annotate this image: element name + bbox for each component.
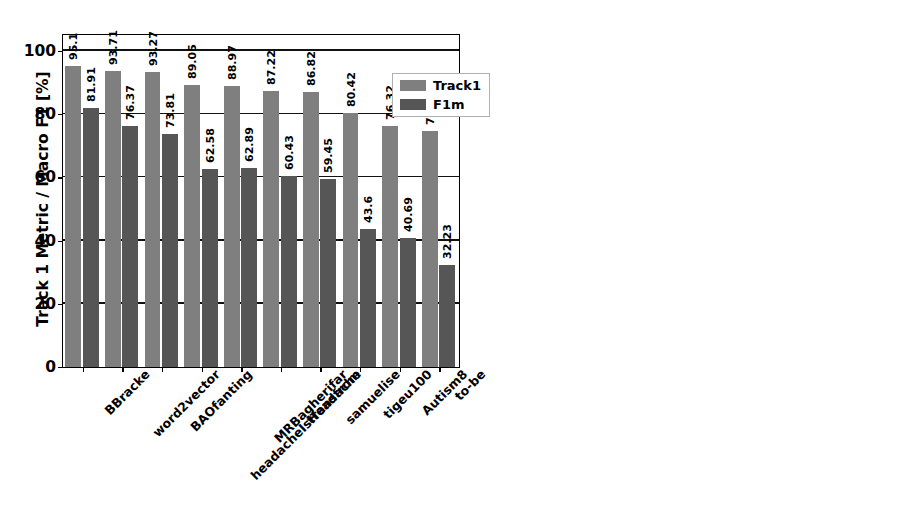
x-tick-mark [83, 367, 84, 372]
y-tick-mark [58, 177, 63, 178]
bar-value-label: 43.6 [362, 196, 373, 223]
y-tick-label: 0 [45, 358, 56, 376]
bar-value-label: 87.22 [266, 50, 277, 85]
bar-value-label: 62.89 [244, 127, 255, 162]
bar-group: 93.7176.37 [105, 35, 140, 367]
x-tick-mark [400, 367, 401, 372]
bar: 62.89 [241, 168, 257, 367]
bar: 89.05 [184, 85, 200, 367]
bar: 40.69 [400, 238, 416, 367]
bar-group: 93.2773.81 [145, 35, 180, 367]
bar-group: 86.8259.45 [303, 35, 338, 367]
bar-value-label: 59.45 [323, 138, 334, 173]
bar-value-label: 93.27 [147, 31, 158, 66]
y-tick-mark [58, 51, 63, 52]
legend-label: F1m [433, 98, 464, 111]
x-tick-mark [360, 367, 361, 372]
bar-value-label: 80.42 [345, 72, 356, 107]
bar-value-label: 89.05 [187, 45, 198, 80]
legend-swatch [400, 99, 426, 110]
figure-root: Track 1 Metric / Macro F1 [%] 95.181.919… [0, 0, 919, 519]
bar-value-label: 93.71 [107, 30, 118, 65]
y-tick-label: 20 [34, 295, 56, 313]
bar: 59.45 [320, 179, 336, 367]
y-tick-label: 60 [34, 168, 56, 186]
bar-value-label: 76.37 [125, 85, 136, 120]
y-tick-mark [58, 304, 63, 305]
bar: 80.42 [343, 113, 359, 367]
y-tick-mark [58, 367, 63, 368]
bar-value-label: 32.23 [442, 224, 453, 259]
bar-value-label: 88.97 [226, 45, 237, 80]
y-tick-label: 40 [34, 232, 56, 250]
y-tick-mark [58, 241, 63, 242]
bar: 93.27 [145, 72, 161, 367]
bar-value-label: 86.82 [305, 52, 316, 87]
x-tick-mark [202, 367, 203, 372]
bar: 76.32 [382, 126, 398, 367]
chart-panel-track2: Track 2 Metric 1146155314852487248129572… [470, 0, 919, 519]
bar: 93.71 [105, 71, 121, 367]
bar: 87.22 [263, 91, 279, 367]
y-tick-label: 80 [34, 105, 56, 123]
bar-group: 88.9762.89 [224, 35, 259, 367]
bar: 60.43 [281, 176, 297, 367]
y-tick-label: 100 [24, 42, 56, 60]
bar: 32.23 [439, 265, 455, 367]
bar-value-label: 40.69 [402, 198, 413, 233]
x-tick-mark [281, 367, 282, 372]
plot-area-left: 95.181.9193.7176.3793.2773.8189.0562.588… [62, 34, 460, 368]
bar-group: 87.2260.43 [263, 35, 298, 367]
x-tick-mark [122, 367, 123, 372]
bar-value-label: 73.81 [164, 93, 175, 128]
bar-value-label: 81.91 [85, 67, 96, 102]
bar-group: 80.4243.6 [343, 35, 378, 367]
chart-panel-track1: Track 1 Metric / Macro F1 [%] 95.181.919… [0, 0, 470, 519]
x-tick-label: BBracke [103, 368, 153, 418]
x-tick-mark [439, 367, 440, 372]
bar: 62.58 [202, 169, 218, 367]
legend-item: F1m [400, 98, 481, 111]
legend-item: Track1 [400, 79, 481, 92]
x-tick-mark [162, 367, 163, 372]
x-tick-mark [320, 367, 321, 372]
bar: 88.97 [224, 86, 240, 367]
bar-value-label: 95.1 [68, 33, 79, 60]
bar: 43.6 [360, 229, 376, 367]
bar-value-label: 60.43 [283, 135, 294, 170]
y-tick-mark [58, 114, 63, 115]
bar-group: 89.0562.58 [184, 35, 219, 367]
bar-group: 95.181.91 [65, 35, 100, 367]
bar: 76.37 [122, 126, 138, 367]
bar: 74.79 [422, 131, 438, 367]
bar: 73.81 [162, 134, 178, 367]
bar-value-label: 62.58 [204, 128, 215, 163]
bar: 95.1 [65, 66, 81, 367]
bar: 86.82 [303, 92, 319, 367]
bar: 81.91 [83, 108, 99, 367]
legend-swatch [400, 80, 426, 91]
